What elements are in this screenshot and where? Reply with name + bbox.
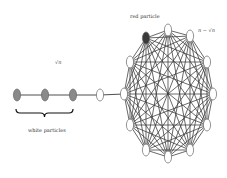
- graph-edge: [146, 38, 168, 157]
- chain-node: [96, 89, 103, 101]
- clique-size-label: n − √n: [198, 27, 215, 33]
- clique-node: [203, 56, 210, 68]
- clique-node: [209, 88, 216, 100]
- red-particle-label: red particle: [130, 13, 160, 20]
- red-particle-node: [142, 32, 149, 44]
- lollipop-graph-diagram: red particle n − √n √n white particles: [0, 0, 227, 178]
- white-particle-node: [13, 89, 20, 101]
- clique-node: [164, 151, 171, 163]
- clique-node: [203, 119, 210, 131]
- white-particles-label: white particles: [28, 127, 66, 134]
- chain-length-label: √n: [55, 59, 61, 65]
- white-particle-node: [41, 89, 48, 101]
- clique-node: [142, 144, 149, 156]
- clique-node: [164, 24, 171, 36]
- clique-node: [186, 30, 193, 42]
- white-particles-brace: [16, 109, 73, 117]
- clique-node: [126, 56, 133, 68]
- clique-node: [120, 88, 127, 100]
- clique-node: [126, 119, 133, 131]
- white-particle-node: [69, 89, 76, 101]
- clique-node: [186, 144, 193, 156]
